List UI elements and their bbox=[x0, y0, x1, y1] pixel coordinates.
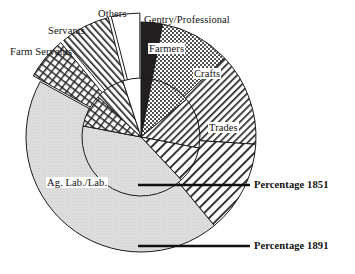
pie-chart-canvas bbox=[0, 0, 355, 274]
slice-label-ag-lab: Ag. Lab./Lab. bbox=[46, 177, 108, 188]
slice-label-farmers: Farmers bbox=[148, 43, 185, 54]
slice-label-trades: Trades bbox=[208, 122, 239, 133]
inner-ring-callout-label: Percentage 1851 bbox=[254, 179, 329, 190]
slice-label-others: Others bbox=[98, 8, 127, 19]
slice-label-crafts: Crafts bbox=[193, 68, 221, 79]
slice-label-servants: Servants bbox=[48, 25, 85, 36]
chart-figure: OthersGentry/ProfessionalServantsFarm Se… bbox=[0, 0, 355, 274]
slice-label-farm-servants: Farm Servants bbox=[10, 46, 72, 57]
slice-label-gentry-professional: Gentry/Professional bbox=[144, 14, 230, 25]
outer-ring-callout-label: Percentage 1891 bbox=[254, 240, 329, 251]
